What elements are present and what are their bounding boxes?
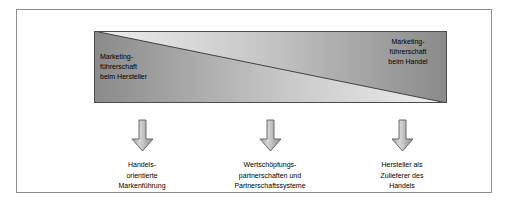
caption-1-line-2: orientierte xyxy=(94,171,190,182)
caption-1-line-3: Markenführung xyxy=(94,181,190,192)
diagram-frame: Marketing- führerschaft beim Hersteller … xyxy=(16,9,492,193)
bar-label-left-line-3: beim Hersteller xyxy=(100,73,147,80)
bar-label-left: Marketing- führerschaft beim Hersteller xyxy=(100,52,147,82)
bar-label-right-line-2: führerschaft xyxy=(390,48,427,55)
bar-label-left-line-2: führerschaft xyxy=(100,63,137,70)
bar-label-right-line-1: Marketing- xyxy=(391,38,424,45)
caption-3-line-1: Hersteller als xyxy=(354,160,450,171)
caption-2-line-3: Partnerschaftssysteme xyxy=(205,181,335,192)
caption-1: Handels- orientierte Markenführung xyxy=(94,160,190,192)
arrow-down-icon xyxy=(257,119,283,153)
caption-3: Hersteller als Zulieferer des Handels xyxy=(354,160,450,192)
arrow-down-icon xyxy=(129,119,155,153)
caption-2-line-1: Wertschöpfungs- xyxy=(205,160,335,171)
arrow-down-icon xyxy=(389,119,415,153)
caption-3-line-2: Zulieferer des xyxy=(354,171,450,182)
caption-1-line-1: Handels- xyxy=(94,160,190,171)
bar-label-right-line-3: beim Handel xyxy=(388,58,427,65)
bar-label-left-line-1: Marketing- xyxy=(100,53,133,60)
diagram-canvas: Marketing- führerschaft beim Hersteller … xyxy=(0,0,505,203)
arrow-down-2 xyxy=(257,119,283,153)
bar-label-right: Marketing- führerschaft beim Handel xyxy=(373,37,443,67)
arrow-down-3 xyxy=(389,119,415,153)
arrow-down-1 xyxy=(129,119,155,153)
caption-2-line-2: partnerschaften und xyxy=(205,171,335,182)
caption-3-line-3: Handels xyxy=(354,181,450,192)
caption-2: Wertschöpfungs- partnerschaften und Part… xyxy=(205,160,335,192)
